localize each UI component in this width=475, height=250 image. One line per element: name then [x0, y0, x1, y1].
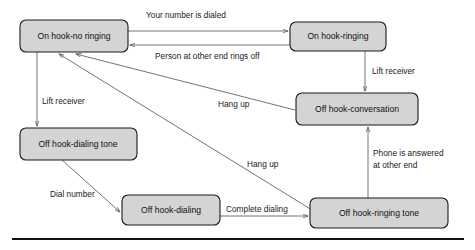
state-on-hook-ringing[interactable]: On hook-ringing — [290, 22, 386, 51]
label-lift-receiver-right: Lift receiver — [372, 66, 415, 76]
state-off-hook-dialing[interactable]: Off hook-dialing — [122, 195, 220, 225]
state-label: On hook-no ringing — [37, 31, 110, 41]
label-phone-is-answered-line1: Phone is answered — [373, 148, 444, 158]
label-dial-number: Dial number — [50, 189, 95, 199]
label-hang-up-upper: Hang up — [218, 99, 250, 109]
label-complete-dialing: Complete dialing — [226, 204, 288, 214]
label-phone-is-answered-line2: at other end — [373, 160, 418, 170]
state-on-hook-no-ringing[interactable]: On hook-no ringing — [20, 20, 128, 52]
arrow-hang-up-conversation — [76, 54, 295, 110]
label-person-at-other-end-rings-off: Person at other end rings off — [155, 51, 260, 61]
state-label: Off hook-dialing — [141, 205, 201, 215]
label-lift-receiver-left: Lift receiver — [42, 96, 85, 106]
state-transition-diagram: Your number is dialed Person at other en… — [0, 0, 475, 250]
state-label: Off hook-ringing tone — [339, 208, 419, 218]
state-label: Off hook-conversation — [315, 104, 399, 114]
arrow-dial-number — [62, 160, 120, 212]
label-hang-up-lower: Hang up — [247, 159, 279, 169]
state-off-hook-ringing-tone[interactable]: Off hook-ringing tone — [310, 198, 448, 228]
state-off-hook-dialing-tone[interactable]: Off hook-dialing tone — [20, 128, 137, 160]
label-your-number-is-dialed: Your number is dialed — [146, 10, 226, 20]
state-label: Off hook-dialing tone — [38, 139, 117, 149]
state-label: On hook-ringing — [307, 31, 368, 41]
state-off-hook-conversation[interactable]: Off hook-conversation — [296, 93, 418, 125]
state-diagram-canvas: Your number is dialed Person at other en… — [0, 0, 475, 250]
